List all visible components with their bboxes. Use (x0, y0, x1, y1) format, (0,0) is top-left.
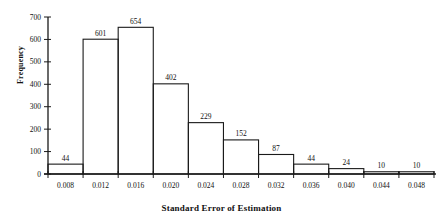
bar-value-label: 654 (130, 17, 142, 26)
x-tick-label: 0.016 (127, 181, 144, 190)
histogram-bar (329, 169, 364, 174)
x-axis-title: Standard Error of Estimation (0, 203, 443, 213)
bar-value-labels: 446016544022291528744241010 (62, 17, 421, 170)
bar-value-label: 152 (235, 129, 247, 138)
histogram-bar (399, 172, 434, 174)
x-tick-label: 0.028 (233, 181, 250, 190)
bar-value-label: 10 (378, 161, 386, 170)
x-tick-label: 0.012 (92, 181, 109, 190)
histogram-bar (294, 164, 329, 174)
x-axis-tick-labels: 0.0080.0120.0160.0200.0240.0280.0320.036… (57, 181, 425, 190)
bar-value-label: 24 (343, 158, 351, 167)
x-tick-label: 0.020 (162, 181, 179, 190)
bar-value-label: 402 (165, 73, 177, 82)
bar-series (48, 27, 434, 174)
y-tick-label: 400 (30, 80, 42, 89)
histogram-bar (188, 123, 223, 174)
y-axis-tick-labels: 0100200300400500600700 (30, 13, 42, 179)
y-tick-label: 100 (30, 147, 42, 156)
bar-value-label: 601 (95, 29, 107, 38)
x-tick-label: 0.044 (373, 181, 390, 190)
y-tick-label: 700 (30, 13, 42, 22)
y-tick-label: 500 (30, 57, 42, 66)
plot-area: 446016544022291528744241010 0.0080.0120.… (0, 0, 443, 222)
x-tick-label: 0.008 (57, 181, 74, 190)
x-tick-label: 0.040 (338, 181, 355, 190)
x-tick-label: 0.024 (197, 181, 214, 190)
x-tick-label: 0.036 (303, 181, 320, 190)
y-tick-label: 0 (37, 170, 41, 179)
y-tick-label: 300 (30, 102, 42, 111)
histogram-bar (118, 27, 153, 174)
histogram-chart: Frequency 446016544022291528744241010 0.… (0, 0, 443, 222)
x-tick-label: 0.032 (268, 181, 285, 190)
y-axis-title: Frequency (14, 0, 28, 145)
bar-value-label: 10 (413, 161, 421, 170)
histogram-bar (259, 154, 294, 174)
histogram-bar (364, 172, 399, 174)
x-tick-label: 0.048 (408, 181, 425, 190)
histogram-bar (223, 140, 258, 174)
bar-value-label: 44 (307, 154, 315, 163)
bar-value-label: 44 (62, 154, 70, 163)
histogram-bar (153, 84, 188, 174)
histogram-bar (48, 164, 83, 174)
bar-value-label: 229 (200, 112, 212, 121)
y-tick-label: 200 (30, 125, 42, 134)
histogram-bar (83, 39, 118, 174)
y-tick-label: 600 (30, 35, 42, 44)
bar-value-label: 87 (272, 144, 280, 153)
